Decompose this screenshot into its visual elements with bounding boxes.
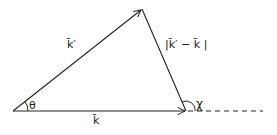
scattering-vector-diagram: k̄′ k̄ |k̄′ − k̄ | θ χ (0, 0, 277, 135)
vector-k-prime-line (13, 10, 141, 111)
label-chi: χ (196, 97, 203, 111)
label-theta: θ (29, 99, 36, 112)
theta-arc-icon (25, 102, 28, 112)
triangle-figure (0, 0, 277, 135)
label-k-prime: k̄′ (67, 38, 76, 51)
label-k: k̄ (93, 114, 99, 127)
label-k-prime-minus-k: |k̄′ − k̄ | (165, 38, 207, 51)
vector-difference-line (142, 9, 186, 111)
